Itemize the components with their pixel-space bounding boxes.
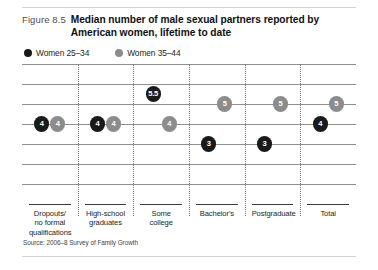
- figure-title: Median number of male sexual partners re…: [71, 14, 339, 39]
- legend-dot-icon: [24, 49, 32, 57]
- x-axis-tick-group: High-schoolgraduates: [85, 204, 127, 228]
- top-divider-rule: [22, 7, 356, 8]
- axis-tick-mark: [140, 204, 182, 205]
- data-point-marker[interactable]: 3: [201, 136, 216, 151]
- chart-column: 45: [300, 64, 356, 204]
- x-axis-tick-group: Dropouts/no formalqualifications: [29, 204, 71, 237]
- category-separator: [245, 64, 246, 216]
- data-point-marker[interactable]: 5: [217, 96, 232, 111]
- x-axis-label: Dropouts/no formalqualifications: [29, 209, 71, 237]
- figure-number: Figure 8.5: [22, 14, 71, 27]
- legend-dot-icon: [115, 49, 123, 57]
- data-point-marker[interactable]: 4: [313, 116, 328, 131]
- data-point-marker[interactable]: 5.5: [146, 86, 161, 101]
- legend-label: Women 25–34: [36, 48, 89, 58]
- legend-label: Women 35–44: [127, 48, 180, 58]
- x-axis-tick-group: Somecollege: [140, 204, 182, 228]
- legend-item-women-35-44[interactable]: Women 35–44: [115, 48, 180, 58]
- figure-header: Figure 8.5 Median number of male sexual …: [22, 14, 362, 39]
- data-point-marker[interactable]: 3: [257, 136, 272, 151]
- axis-tick-mark: [307, 204, 349, 205]
- x-axis-label: High-schoolgraduates: [85, 209, 127, 228]
- category-separator: [300, 64, 301, 216]
- bottom-divider-rule: [22, 256, 356, 257]
- data-point-marker[interactable]: 4: [106, 116, 121, 131]
- data-point-marker[interactable]: 5: [329, 96, 344, 111]
- data-point-marker[interactable]: 4: [90, 116, 105, 131]
- x-axis-label: Bachelor's: [196, 209, 238, 218]
- x-axis-tick-group: Bachelor's: [196, 204, 238, 218]
- data-point-marker[interactable]: 5: [273, 96, 288, 111]
- category-separator: [78, 64, 79, 216]
- data-point-marker[interactable]: 4: [50, 116, 65, 131]
- category-separator: [133, 64, 134, 216]
- chart-legend: Women 25–34 Women 35–44: [24, 46, 206, 60]
- x-axis-label: Postgraduate: [252, 209, 294, 218]
- axis-tick-mark: [196, 204, 238, 205]
- chart-column: 35: [245, 64, 301, 204]
- axis-tick-mark: [85, 204, 127, 205]
- chart-column: 44: [22, 64, 78, 204]
- x-axis-label: Somecollege: [140, 209, 182, 228]
- data-point-marker[interactable]: 4: [34, 116, 49, 131]
- category-separator: [189, 64, 190, 216]
- chart-column: 5.54: [133, 64, 189, 204]
- x-axis-tick-group: Total: [307, 204, 349, 218]
- data-point-marker[interactable]: 4: [162, 116, 177, 131]
- chart-column: 35: [189, 64, 245, 204]
- axis-tick-mark: [29, 204, 71, 205]
- figure-container: Figure 8.5 Median number of male sexual …: [0, 0, 378, 270]
- chart-column: 44: [78, 64, 134, 204]
- x-axis-label: Total: [307, 209, 349, 218]
- legend-item-women-25-34[interactable]: Women 25–34: [24, 48, 89, 58]
- x-axis-tick-group: Postgraduate: [252, 204, 294, 218]
- source-note: Source: 2006–8 Survey of Family Growth: [23, 239, 138, 247]
- axis-tick-mark: [252, 204, 294, 205]
